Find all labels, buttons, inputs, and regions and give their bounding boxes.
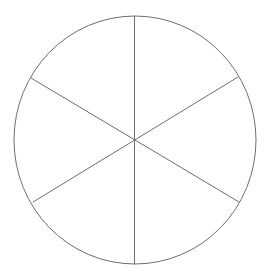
six-sector-circle-diagram: [0, 0, 272, 275]
